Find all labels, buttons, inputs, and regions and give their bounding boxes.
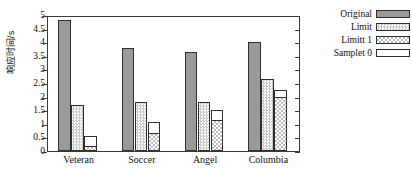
y-tick-label: 5	[4, 11, 45, 21]
legend-swatch	[376, 10, 410, 18]
bar	[148, 133, 161, 151]
y-tick-mark	[42, 98, 47, 99]
y-tick-mark	[42, 43, 47, 44]
y-tick-label: 1	[4, 120, 45, 130]
y-tick-mark	[42, 125, 47, 126]
y-tick-mark-right	[295, 30, 300, 31]
y-tick-mark	[42, 57, 47, 58]
y-tick-mark	[42, 16, 47, 17]
y-tick-label: 3.5	[4, 52, 45, 62]
legend-label: Limitt 1	[341, 35, 372, 45]
y-tick-mark-right	[295, 43, 300, 44]
y-tick-label: 2.5	[4, 79, 45, 89]
y-tick-mark-right	[295, 111, 300, 112]
bar	[248, 42, 261, 151]
bar	[122, 48, 135, 151]
bar	[71, 105, 84, 151]
bar	[84, 146, 97, 151]
plot-area	[47, 16, 300, 152]
y-tick-label: 0	[4, 147, 45, 157]
y-tick-mark-right	[295, 70, 300, 71]
bar	[211, 120, 224, 151]
y-tick-mark-right	[295, 138, 300, 139]
y-tick-mark-right	[295, 98, 300, 99]
y-tick-label: 0.5	[4, 133, 45, 143]
bar	[185, 52, 198, 151]
y-tick-mark	[42, 138, 47, 139]
bar	[135, 102, 148, 151]
chart-legend: OriginalLimitLimitt 1Samplet 0	[306, 8, 410, 60]
legend-item: Limitt 1	[306, 34, 410, 46]
legend-label: Samplet 0	[334, 48, 372, 58]
bar	[274, 97, 287, 151]
y-tick-mark	[42, 84, 47, 85]
y-tick-label: 4	[4, 38, 45, 48]
y-tick-mark	[42, 30, 47, 31]
x-tick-label: Columbia	[237, 154, 300, 165]
y-tick-label: 3	[4, 65, 45, 75]
x-tick-label: Soccer	[110, 154, 173, 165]
y-tick-label: 4.5	[4, 25, 45, 35]
y-tick-mark	[42, 111, 47, 112]
x-tick-label: Veteran	[47, 154, 110, 165]
legend-item: Limit	[306, 21, 410, 33]
y-tick-mark-right	[295, 125, 300, 126]
bar	[58, 20, 71, 151]
legend-item: Samplet 0	[306, 47, 410, 59]
bar	[261, 79, 274, 151]
y-tick-mark-right	[295, 16, 300, 17]
legend-label: Original	[340, 9, 372, 19]
y-tick-mark-right	[295, 84, 300, 85]
y-tick-label: 2	[4, 93, 45, 103]
legend-swatch	[376, 23, 410, 31]
y-tick-label: 1.5	[4, 106, 45, 116]
legend-swatch	[376, 49, 410, 57]
x-tick-label: Angel	[174, 154, 237, 165]
legend-label: Limit	[351, 22, 372, 32]
y-axis-tick-labels: 00.511.522.533.544.55	[0, 0, 45, 185]
bar	[198, 102, 211, 151]
y-tick-mark-right	[295, 57, 300, 58]
legend-swatch	[376, 36, 410, 44]
y-tick-mark	[42, 70, 47, 71]
bar-chart-figure: 响应时间/s 00.511.522.533.544.55 VeteranSocc…	[0, 0, 412, 185]
legend-item: Original	[306, 8, 410, 20]
y-tick-mark	[42, 152, 47, 153]
y-tick-mark-right	[295, 152, 300, 153]
